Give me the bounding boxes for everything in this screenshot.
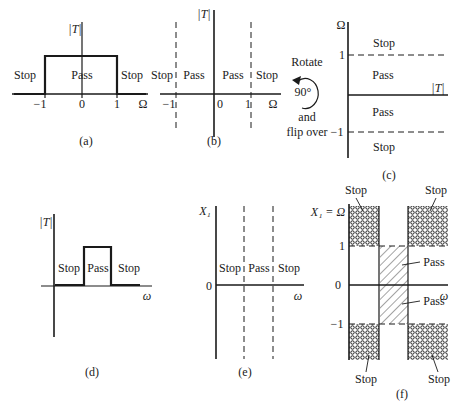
y-axis-label: |T|: [39, 215, 52, 229]
x-tick-label: 0: [79, 97, 85, 111]
stop-label-bottom-left: Stop: [355, 372, 377, 386]
region-label-pass-upper: Pass: [372, 68, 394, 82]
panel-c: Ω 1 −1 |T| Stop Pass Pass Stop (c): [331, 18, 448, 182]
x-axis-label: Ω: [269, 97, 278, 111]
x-axis-label: |T|: [431, 81, 444, 95]
arrowhead-icon: [292, 76, 301, 85]
x-axis-label: ω: [143, 289, 151, 303]
stop-region-top-left: [349, 206, 379, 246]
panel-caption: (f): [396, 387, 408, 401]
x-tick-label: 1: [245, 97, 251, 111]
panel-caption: (a): [79, 134, 92, 148]
y-tick-label: 1: [339, 239, 345, 253]
rotate-label: Rotate: [291, 55, 322, 69]
x-axis-label: Ω: [139, 97, 148, 111]
region-label-stop-left: Stop: [14, 68, 36, 82]
y-tick-label: 0: [335, 278, 341, 292]
stop-region-bottom-left: [349, 324, 379, 360]
y-tick-label: −1: [331, 317, 344, 331]
panel-caption: (e): [238, 365, 251, 379]
y-axis-label: X₁ = Ω: [310, 205, 346, 219]
region-label-stop-right: Stop: [278, 261, 300, 275]
panel-caption: (d): [85, 365, 99, 379]
region-label-pass: Pass: [248, 261, 270, 275]
y-tick-label: 0: [206, 279, 212, 293]
x-axis-label: ω: [294, 289, 302, 303]
region-label-stop-right: Stop: [121, 68, 143, 82]
region-label-pass: Pass: [87, 261, 109, 275]
stop-label-bottom-right: Stop: [428, 372, 450, 386]
panel-e: X₁ 0 Stop Pass Stop ω (e): [198, 204, 304, 379]
region-label-pass: Pass: [71, 68, 93, 82]
region-label-pass-lower: Pass: [372, 105, 394, 119]
pass-label-upper: Pass: [423, 255, 445, 269]
y-tick-label: −1: [331, 125, 344, 139]
region-label-pass-right: Pass: [222, 68, 244, 82]
panel-caption: (b): [207, 134, 221, 148]
panel-f: X₁ = Ω 1 0 −1 ω Stop Stop Pass Pass Stop…: [310, 183, 450, 401]
stop-region-bottom-right: [408, 324, 448, 360]
filter-transformation-figure: |T| Stop Pass Stop −1 0 1 Ω (a) |T| Stop…: [0, 0, 460, 405]
region-label-pass-left: Pass: [183, 68, 205, 82]
panel-d: |T| Stop Pass Stop ω (d): [39, 214, 152, 379]
stop-label-top-left: Stop: [345, 183, 367, 197]
and-label: and: [298, 110, 315, 124]
x-tick-label: −1: [34, 97, 47, 111]
flip-over-label: flip over: [287, 125, 328, 139]
y-tick-label: 1: [339, 48, 345, 62]
region-label-stop-bottom: Stop: [373, 140, 395, 154]
panel-a: |T| Stop Pass Stop −1 0 1 Ω (a): [12, 22, 148, 148]
y-axis-label: X₁: [198, 204, 211, 218]
stop-label-top-right: Stop: [425, 183, 447, 197]
panel-b: |T| Stop Pass Pass Stop −1 0 1 Ω (b): [151, 7, 281, 148]
rotate-angle: 90°: [295, 85, 312, 99]
region-label-stop-top: Stop: [373, 36, 395, 50]
x-tick-label: −1: [163, 97, 176, 111]
y-axis-label: Ω: [337, 18, 346, 32]
y-axis-label: |T|: [197, 7, 210, 21]
region-label-stop-right: Stop: [118, 261, 140, 275]
region-label-stop-left: Stop: [219, 261, 241, 275]
pass-label-lower: Pass: [423, 294, 445, 308]
x-tick-label: 0: [217, 97, 223, 111]
region-label-stop-left: Stop: [151, 68, 173, 82]
x-tick-label: 1: [114, 97, 120, 111]
panel-caption: (c): [382, 168, 395, 182]
region-label-stop-right: Stop: [256, 68, 278, 82]
stop-region-top-right: [408, 206, 448, 246]
rotate-annotation: Rotate 90° and flip over: [287, 55, 328, 139]
region-label-stop-left: Stop: [58, 261, 80, 275]
y-axis-label: |T|: [68, 22, 81, 36]
